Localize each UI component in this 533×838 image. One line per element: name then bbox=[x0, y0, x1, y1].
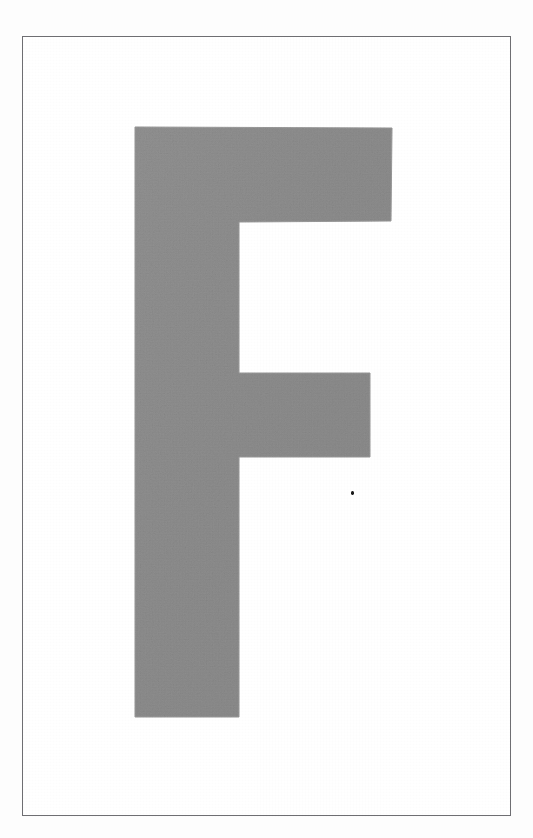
glyph-layer bbox=[23, 37, 512, 817]
letter-f-path-group bbox=[135, 127, 392, 717]
page-canvas bbox=[0, 0, 533, 838]
border-rule bbox=[22, 36, 511, 816]
ink-speck bbox=[351, 491, 354, 495]
letter-f-outline bbox=[135, 127, 392, 717]
letter-f-glyph bbox=[23, 37, 512, 817]
